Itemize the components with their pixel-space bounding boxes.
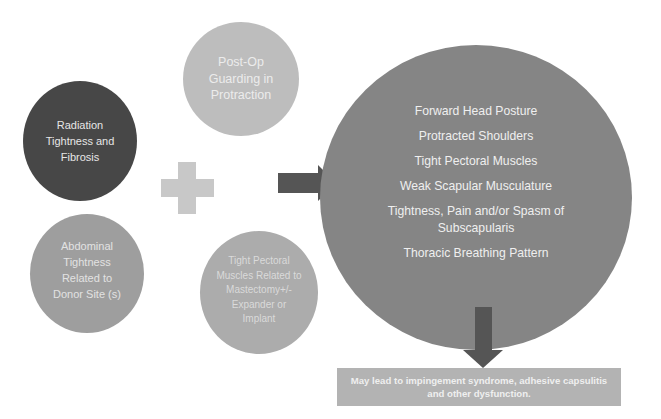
- cause-label: Post-Op Guarding in Protraction: [202, 54, 280, 104]
- outcome-label: May lead to impingement syndrome, adhesi…: [345, 374, 613, 400]
- cause-circle-abdominal: Abdominal Tightness Related to Donor Sit…: [30, 214, 144, 333]
- cause-label: Radiation Tightness and Fibrosis: [40, 117, 120, 165]
- cause-label: Tight Pectoral Muscles Related to Mastec…: [216, 254, 302, 327]
- effect-item: Tightness, Pain and/or Spasm of Subscapu…: [370, 203, 582, 237]
- cause-circle-post-op: Post-Op Guarding in Protraction: [183, 22, 299, 136]
- effect-item: Thoracic Breathing Pattern: [370, 245, 582, 262]
- effect-item: Tight Pectoral Muscles: [370, 153, 582, 170]
- effects-circle: Forward Head Posture Protracted Shoulder…: [320, 45, 632, 350]
- effect-item: Protracted Shoulders: [370, 128, 582, 145]
- plus-icon-horizontal-bar: [161, 179, 214, 197]
- effects-list: Forward Head Posture Protracted Shoulder…: [370, 103, 582, 270]
- outcome-box: May lead to impingement syndrome, adhesi…: [337, 368, 621, 406]
- cause-circle-pectoral: Tight Pectoral Muscles Related to Mastec…: [200, 231, 318, 354]
- cause-circle-radiation: Radiation Tightness and Fibrosis: [23, 81, 137, 201]
- effect-item: Weak Scapular Musculature: [370, 178, 582, 195]
- arrow-down-head: [463, 350, 503, 368]
- cause-label: Abdominal Tightness Related to Donor Sit…: [50, 238, 124, 302]
- arrow-down-shaft: [475, 307, 492, 351]
- effect-item: Forward Head Posture: [370, 103, 582, 120]
- arrow-right-shaft: [278, 173, 320, 193]
